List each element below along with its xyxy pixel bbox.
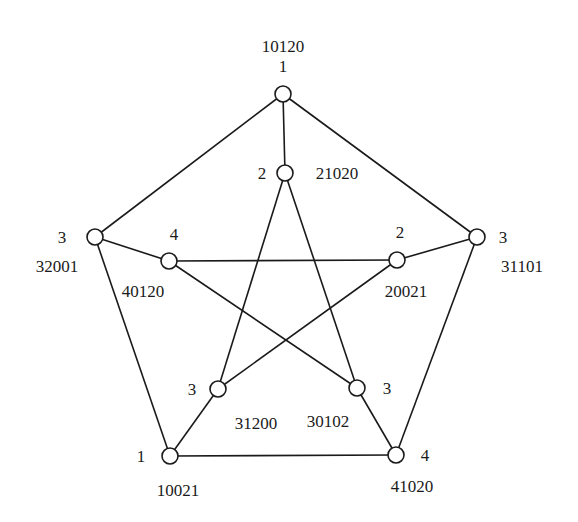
edge-outer_top-outer_right [283, 94, 477, 237]
vertex-color-label: 1 [279, 57, 288, 76]
vertex-outer-bleft [162, 448, 178, 464]
edge-layer [95, 94, 477, 456]
edge-outer_bright-outer_bleft [170, 455, 396, 456]
vertex-color-label: 3 [499, 228, 508, 247]
edge-outer_bleft-outer_left [95, 237, 170, 456]
vertex-color-label: 1 [137, 447, 146, 466]
vertex-code-label: 30102 [307, 412, 350, 431]
edge-outer_right-outer_bright [396, 237, 477, 455]
edge-inner_right-inner_bleft [218, 260, 397, 389]
vertex-color-label: 2 [258, 164, 267, 183]
vertex-color-label: 2 [396, 223, 405, 242]
edge-outer_bleft-inner_bleft [170, 389, 218, 456]
vertex-color-label: 3 [383, 379, 392, 398]
edge-inner_top-inner_bright [285, 173, 357, 388]
vertex-code-label: 41020 [391, 477, 434, 496]
vertex-color-label: 3 [188, 380, 197, 399]
vertex-inner-bleft [210, 381, 226, 397]
vertex-code-label: 21020 [316, 164, 359, 183]
edge-outer_left-outer_top [95, 94, 283, 237]
vertex-code-label: 20021 [385, 282, 428, 301]
vertex-code-label: 10120 [262, 37, 305, 56]
vertex-code-label: 31200 [235, 414, 278, 433]
edge-outer_top-inner_top [283, 94, 285, 173]
label-layer: 1101203311014410201100213320012210202200… [36, 37, 543, 500]
vertex-code-label: 10021 [157, 481, 200, 500]
edge-outer_right-inner_right [397, 237, 477, 260]
vertex-color-label: 4 [170, 225, 179, 244]
vertex-code-label: 32001 [36, 257, 79, 276]
vertex-outer-bright [388, 447, 404, 463]
vertex-color-label: 3 [58, 228, 67, 247]
vertex-inner-left [161, 253, 177, 269]
edge-inner_left-inner_right [169, 260, 397, 261]
vertex-color-label: 4 [421, 446, 430, 465]
edge-outer_bright-inner_bright [357, 388, 396, 455]
vertex-code-label: 40120 [122, 282, 165, 301]
vertex-inner-top [277, 165, 293, 181]
edge-inner_top-inner_bleft [218, 173, 285, 389]
graph-diagram: 1101203311014410201100213320012210202200… [0, 0, 578, 522]
edge-inner_left-inner_bright [169, 261, 357, 388]
vertex-outer-right [469, 229, 485, 245]
edge-outer_left-inner_left [95, 237, 169, 261]
vertex-inner-right [389, 252, 405, 268]
vertex-outer-top [275, 86, 291, 102]
vertex-inner-bright [349, 380, 365, 396]
vertex-code-label: 31101 [501, 257, 543, 276]
vertex-outer-left [87, 229, 103, 245]
node-layer [87, 86, 485, 464]
